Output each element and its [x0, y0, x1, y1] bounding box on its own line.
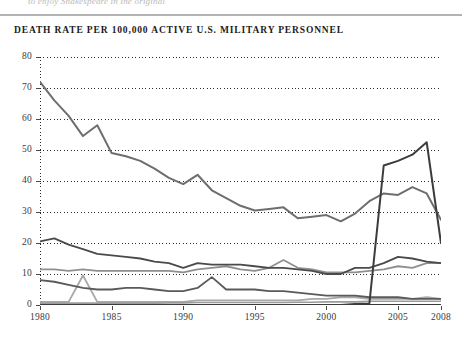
y-tick-label-40: 40 [8, 175, 32, 185]
plot-area [40, 57, 441, 305]
line-chart-svg [40, 57, 441, 305]
x-tick-label-2008: 2008 [421, 312, 461, 322]
x-tick-mark-2008 [441, 306, 442, 310]
series-self-inflicted-rate [40, 277, 441, 299]
y-tick-label-20: 20 [8, 237, 32, 247]
y-tick-label-0: 0 [8, 299, 32, 309]
y-tick-label-50: 50 [8, 144, 32, 154]
y-tick-label-70: 70 [8, 82, 32, 92]
chart-title: DEATH RATE PER 100,000 ACTIVE U.S. MILIT… [14, 25, 344, 35]
series-lines [40, 82, 441, 305]
x-tick-mark-1980 [40, 306, 41, 310]
x-tick-mark-2000 [326, 306, 327, 310]
x-tick-label-1985: 1985 [92, 312, 132, 322]
y-tick-label-30: 30 [8, 206, 32, 216]
x-tick-label-2005: 2005 [378, 312, 418, 322]
x-tick-label-1990: 1990 [163, 312, 203, 322]
y-tick-label-80: 80 [8, 51, 32, 61]
y-tick-label-10: 10 [8, 268, 32, 278]
header-divider-rule [0, 14, 462, 16]
x-tick-label-2000: 2000 [306, 312, 346, 322]
chart-page: to enjoy Shakespeare in the original DEA… [0, 0, 462, 341]
page-top-caption: to enjoy Shakespeare in the original [28, 0, 165, 6]
x-tick-mark-1995 [255, 306, 256, 310]
series-hostile-action-spike [40, 142, 441, 305]
x-tick-mark-1990 [183, 306, 184, 310]
x-tick-label-1980: 1980 [20, 312, 60, 322]
x-tick-label-1995: 1995 [235, 312, 275, 322]
gridlines [40, 57, 441, 305]
x-tick-mark-2005 [398, 306, 399, 310]
y-tick-label-60: 60 [8, 113, 32, 123]
series-illness-rate [40, 260, 441, 272]
x-tick-mark-1985 [112, 306, 113, 310]
